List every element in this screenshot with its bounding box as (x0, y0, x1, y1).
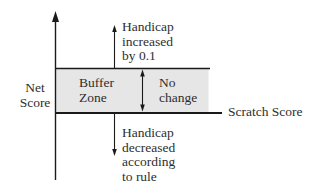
handicap-decreased-line-4: to rule (122, 170, 175, 185)
increase-arrow-head (112, 25, 117, 32)
handicap-increased-label: Handicap increased by 0.1 (122, 20, 174, 64)
decrease-arrow-head (112, 149, 117, 156)
x-axis-label: Scratch Score (228, 105, 303, 120)
handicap-increased-line-3: by 0.1 (122, 49, 174, 64)
no-change-label: No change (159, 76, 197, 105)
y-axis-label-line-2: Score (19, 96, 51, 111)
handicap-decreased-line-2: decreased (122, 141, 175, 156)
handicap-decreased-line-1: Handicap (122, 126, 175, 141)
buffer-zone-label-line-1: Buffer (79, 76, 114, 91)
handicap-decreased-line-3: according (122, 155, 175, 170)
y-axis-label-line-1: Net (19, 81, 51, 96)
handicap-decreased-label: Handicap decreased according to rule (122, 126, 175, 184)
handicap-increased-line-2: increased (122, 35, 174, 50)
y-axis-label: Net Score (19, 81, 51, 110)
no-change-label-line-2: change (159, 91, 197, 106)
net-score-axis-arrowhead (52, 11, 59, 22)
no-change-label-line-1: No (159, 76, 197, 91)
buffer-zone-label: Buffer Zone (79, 76, 114, 105)
handicap-increased-line-1: Handicap (122, 20, 174, 35)
buffer-zone-label-line-2: Zone (79, 91, 114, 106)
